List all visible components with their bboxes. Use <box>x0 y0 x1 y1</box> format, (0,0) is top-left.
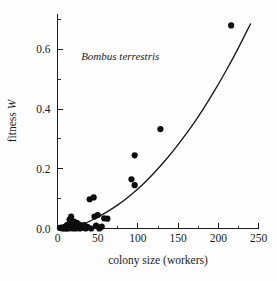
x-tick-label: 50 <box>92 232 104 244</box>
data-point <box>132 152 138 158</box>
caption-fragment <box>0 272 277 281</box>
x-tick-label: 100 <box>129 232 147 244</box>
x-tick-label: 200 <box>210 232 228 244</box>
figure-panel: 0501001502002500.00.20.40.6colony size (… <box>0 0 277 281</box>
scatter-plot: 0501001502002500.00.20.40.6colony size (… <box>0 0 277 281</box>
data-point <box>95 212 101 218</box>
data-point <box>157 126 163 132</box>
x-axis-title: colony size (workers) <box>108 254 208 267</box>
data-point <box>99 224 105 230</box>
data-point <box>132 182 138 188</box>
data-point <box>104 216 110 222</box>
x-tick-label: 150 <box>169 232 187 244</box>
y-tick-label: 0.2 <box>36 163 51 175</box>
data-point <box>91 194 97 200</box>
x-tick-label: 250 <box>250 232 268 244</box>
data-point <box>228 22 234 28</box>
y-tick-label: 0.6 <box>36 43 51 55</box>
y-tick-label: 0.4 <box>36 103 51 115</box>
y-tick-label: 0.0 <box>36 223 51 235</box>
data-point <box>128 176 134 182</box>
x-tick-label: 0 <box>55 232 61 244</box>
y-axis-title: fitness W <box>6 98 18 142</box>
species-annotation: Bombus terrestris <box>81 50 159 62</box>
